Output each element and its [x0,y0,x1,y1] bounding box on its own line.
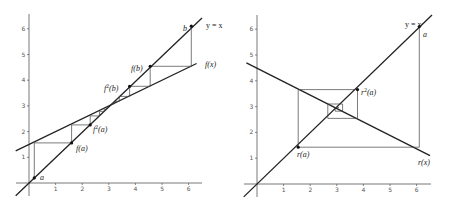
label-fb: f(b) [131,64,143,73]
svg-text:1: 1 [250,154,254,161]
left-cobweb-plot: 1 2 3 4 5 6 1 2 3 4 5 6 [16,14,223,196]
x-ticks: 1 2 3 4 5 6 [54,183,191,192]
svg-text:4: 4 [134,185,138,192]
svg-text:4: 4 [362,186,366,193]
svg-text:5: 5 [250,51,254,58]
label-f2a: f2(a) [93,124,108,134]
svg-text:5: 5 [388,186,392,193]
x-ticks: 1 2 3 4 5 6 [282,184,419,193]
label-b: b [183,24,187,33]
label-y-equals-x: y = x [405,20,422,29]
svg-text:5: 5 [160,185,164,192]
svg-text:5: 5 [22,51,26,58]
point-b [190,25,193,28]
svg-text:6: 6 [250,25,254,32]
left-labels: y = x f(x) a f(a) f2(a) b f(b) f2(b) [40,21,223,182]
f-curve [16,64,197,151]
y-ticks: 1 2 3 4 5 6 [22,25,30,161]
identity-line [16,18,202,196]
svg-text:4: 4 [22,76,26,83]
svg-text:3: 3 [22,102,26,109]
svg-text:2: 2 [22,128,26,135]
label-rx: r(x) [418,158,430,167]
point-fb [149,65,152,68]
svg-text:6: 6 [415,186,419,193]
svg-text:1: 1 [22,153,26,160]
svg-text:2: 2 [308,186,312,193]
point-fa [70,141,73,144]
svg-text:3: 3 [250,103,254,110]
point-f2a [89,123,92,126]
right-cobweb-plot: 1 2 3 4 5 6 1 2 3 4 5 6 [244,15,432,197]
label-f2b: f2(b) [104,83,119,93]
y-ticks: 1 2 3 4 5 6 [250,25,258,161]
svg-text:3: 3 [335,186,339,193]
svg-text:6: 6 [22,25,26,32]
svg-text:1: 1 [282,186,286,193]
label-fx: f(x) [205,60,216,69]
figure: 1 2 3 4 5 6 1 2 3 4 5 6 [0,0,454,211]
point-a [33,176,36,179]
label-r2a: r2(a) [361,87,377,97]
label-a: a [40,173,44,182]
svg-text:4: 4 [250,77,254,84]
point-ra [297,146,300,149]
label-a: a [423,30,427,39]
svg-text:2: 2 [80,185,84,192]
label-fa: f(a) [76,144,88,153]
point-f2b [128,85,131,88]
svg-text:2: 2 [250,128,254,135]
identity-line [244,15,432,197]
right-labels: y = x a r(a) r2(a) r(x) [297,20,430,167]
label-ra: r(a) [297,150,310,159]
label-y-equals-x: y = x [206,21,223,30]
point-r2a [356,88,359,91]
svg-text:3: 3 [107,185,111,192]
r-curve [246,63,430,156]
svg-text:1: 1 [54,185,58,192]
svg-text:6: 6 [187,185,191,192]
